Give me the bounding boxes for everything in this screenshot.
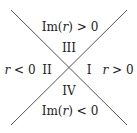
region-diagram: Im(r) > 0 III r < 0 II I r > 0 IV Im(r) … [0, 0, 137, 133]
region-II-label: II [42, 64, 51, 76]
region-I-label: I [87, 64, 92, 76]
left-condition-label: r < 0 [4, 64, 35, 76]
top-condition-label: Im(r) > 0 [42, 21, 99, 33]
region-IV-label: IV [62, 85, 75, 97]
region-III-label: III [62, 42, 76, 54]
right-condition-label: r > 0 [102, 64, 133, 76]
bottom-condition-label: Im(r) < 0 [42, 105, 99, 117]
